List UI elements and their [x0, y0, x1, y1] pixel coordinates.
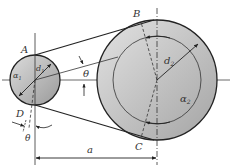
label-b-point: B: [132, 8, 140, 19]
theta-bottom-arc: [36, 125, 52, 128]
label-c-point: C: [135, 141, 143, 152]
label-a-point: A: [20, 44, 28, 55]
label-theta-top: θ: [83, 68, 89, 79]
theta-bottom-arrow-left: [12, 122, 24, 126]
label-theta-bottom: θ: [25, 133, 31, 143]
label-d-point: D: [15, 108, 24, 119]
theta-arrow-top: [79, 56, 83, 64]
label-center-distance: a: [87, 144, 93, 155]
belt-drive-diagram: A B C D θ θ d1 α1 d2 α2 a: [0, 0, 232, 168]
